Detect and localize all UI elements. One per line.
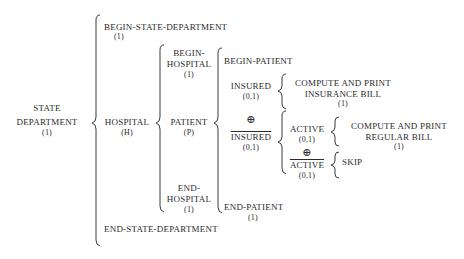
end-patient: END-PATIENT [224, 202, 283, 212]
begin-hospital-line2: HOSPITAL [167, 59, 211, 69]
active-label: ACTIVE [290, 124, 324, 134]
end-patient-count: (1) [248, 213, 258, 223]
exclusive-or-symbol: ⊕ [246, 114, 255, 124]
begin-state-department: BEGIN-STATE-DEPARTMENT [104, 22, 227, 32]
end-state-department: END-STATE-DEPARTMENT [104, 224, 218, 234]
bracket-not-active [331, 152, 339, 178]
root-label-line2: DEPARTMENT [16, 117, 77, 127]
active-action-line1: COMPUTE AND PRINT [351, 121, 447, 131]
patient-count: (P) [184, 128, 194, 138]
insured-action-line1: COMPUTE AND PRINT [295, 78, 391, 88]
insured-action-count: (1) [338, 99, 348, 109]
begin-patient: BEGIN-PATIENT [224, 56, 293, 66]
insured-action-line2: INSURANCE BILL [305, 89, 382, 99]
end-hospital-line1: END- [178, 183, 200, 193]
hospital-count: (H) [121, 128, 133, 138]
not-insured-count: (0,1) [243, 143, 259, 153]
end-hospital-line2: HOSPITAL [167, 194, 211, 204]
active-count: (0,1) [299, 135, 315, 145]
root-label-line1: STATE [33, 103, 60, 113]
patient-label: PATIENT [170, 117, 207, 127]
begin-hospital-line1: BEGIN- [173, 48, 205, 58]
insured-label: INSURED [231, 81, 271, 91]
root-count: (1) [42, 128, 52, 138]
insured-count: (0,1) [243, 92, 259, 102]
bracket-hospital [156, 45, 164, 212]
hospital-label: HOSPITAL [105, 117, 149, 127]
skip-action: SKIP [342, 157, 362, 167]
end-hospital-count: (1) [184, 205, 194, 215]
not-insured-label: INSURED [231, 132, 271, 142]
bracket-patient [214, 48, 222, 213]
bracket-not-insured [278, 111, 286, 174]
not-active-count: (0,1) [299, 171, 315, 181]
bracket-active [331, 117, 339, 146]
active-action-count: (1) [394, 142, 404, 152]
not-active-label: ACTIVE [290, 160, 324, 170]
begin-state-department-count: (1) [114, 32, 124, 42]
bracket-insured [278, 74, 286, 109]
exclusive-or-symbol-2: ⊕ [302, 147, 311, 157]
active-action-line2: REGULAR BILL [365, 132, 432, 142]
bracket-state-department [92, 15, 100, 246]
begin-hospital-count: (1) [184, 70, 194, 80]
